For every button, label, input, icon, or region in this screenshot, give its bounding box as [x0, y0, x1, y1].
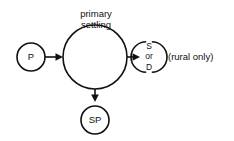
- node-sludge-outlet-label-line1: S: [146, 41, 152, 51]
- node-sludge-outlet-right-arc[interactable]: [152, 42, 167, 72]
- node-sludge-outlet-label-line3: D: [146, 62, 152, 72]
- primary-settling-label-line1: primary: [80, 8, 112, 19]
- process-flow-diagram: primary settling P S or D (rural only) S…: [0, 0, 234, 141]
- flow-arrow-influent-to-settling-head: [56, 53, 64, 61]
- diagram-canvas: primary settling P S or D (rural only) S…: [0, 0, 234, 141]
- flow-arrow-settling-to-outlet-head: [133, 53, 141, 61]
- node-primary-influent-label: P: [28, 51, 34, 62]
- rural-only-note: (rural only): [168, 51, 213, 62]
- flow-arrow-settling-to-sludge-pump-head: [91, 95, 99, 103]
- node-sludge-outlet-label-line2: or: [145, 51, 153, 61]
- node-sludge-pump-label: SP: [89, 114, 102, 125]
- node-primary-settling-circle[interactable]: [63, 25, 127, 89]
